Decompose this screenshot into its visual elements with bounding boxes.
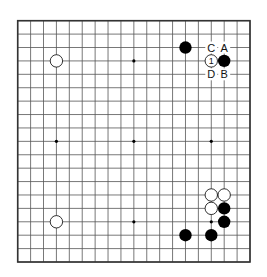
- point-label-a: A: [221, 42, 229, 54]
- white-stone: [205, 202, 217, 214]
- white-stone: [50, 216, 62, 228]
- point-label-d: D: [207, 68, 215, 80]
- black-stone: [218, 202, 230, 214]
- black-stone: [218, 216, 230, 228]
- point-label-c: C: [207, 42, 215, 54]
- black-stone: [179, 41, 191, 53]
- black-stone: [179, 229, 191, 241]
- white-stone: [218, 189, 230, 201]
- black-stone: [218, 55, 230, 67]
- white-stone: 1: [205, 55, 217, 67]
- star-point: [210, 140, 213, 143]
- black-stone: [205, 229, 217, 241]
- star-point: [132, 220, 135, 223]
- move-number: 1: [209, 56, 214, 66]
- point-label-b: B: [221, 68, 228, 80]
- white-stone: [205, 189, 217, 201]
- white-stone: [50, 55, 62, 67]
- star-point: [55, 140, 58, 143]
- star-point: [132, 59, 135, 62]
- star-point: [132, 140, 135, 143]
- go-board: 1 CADB: [0, 0, 267, 277]
- star-point: [210, 220, 213, 223]
